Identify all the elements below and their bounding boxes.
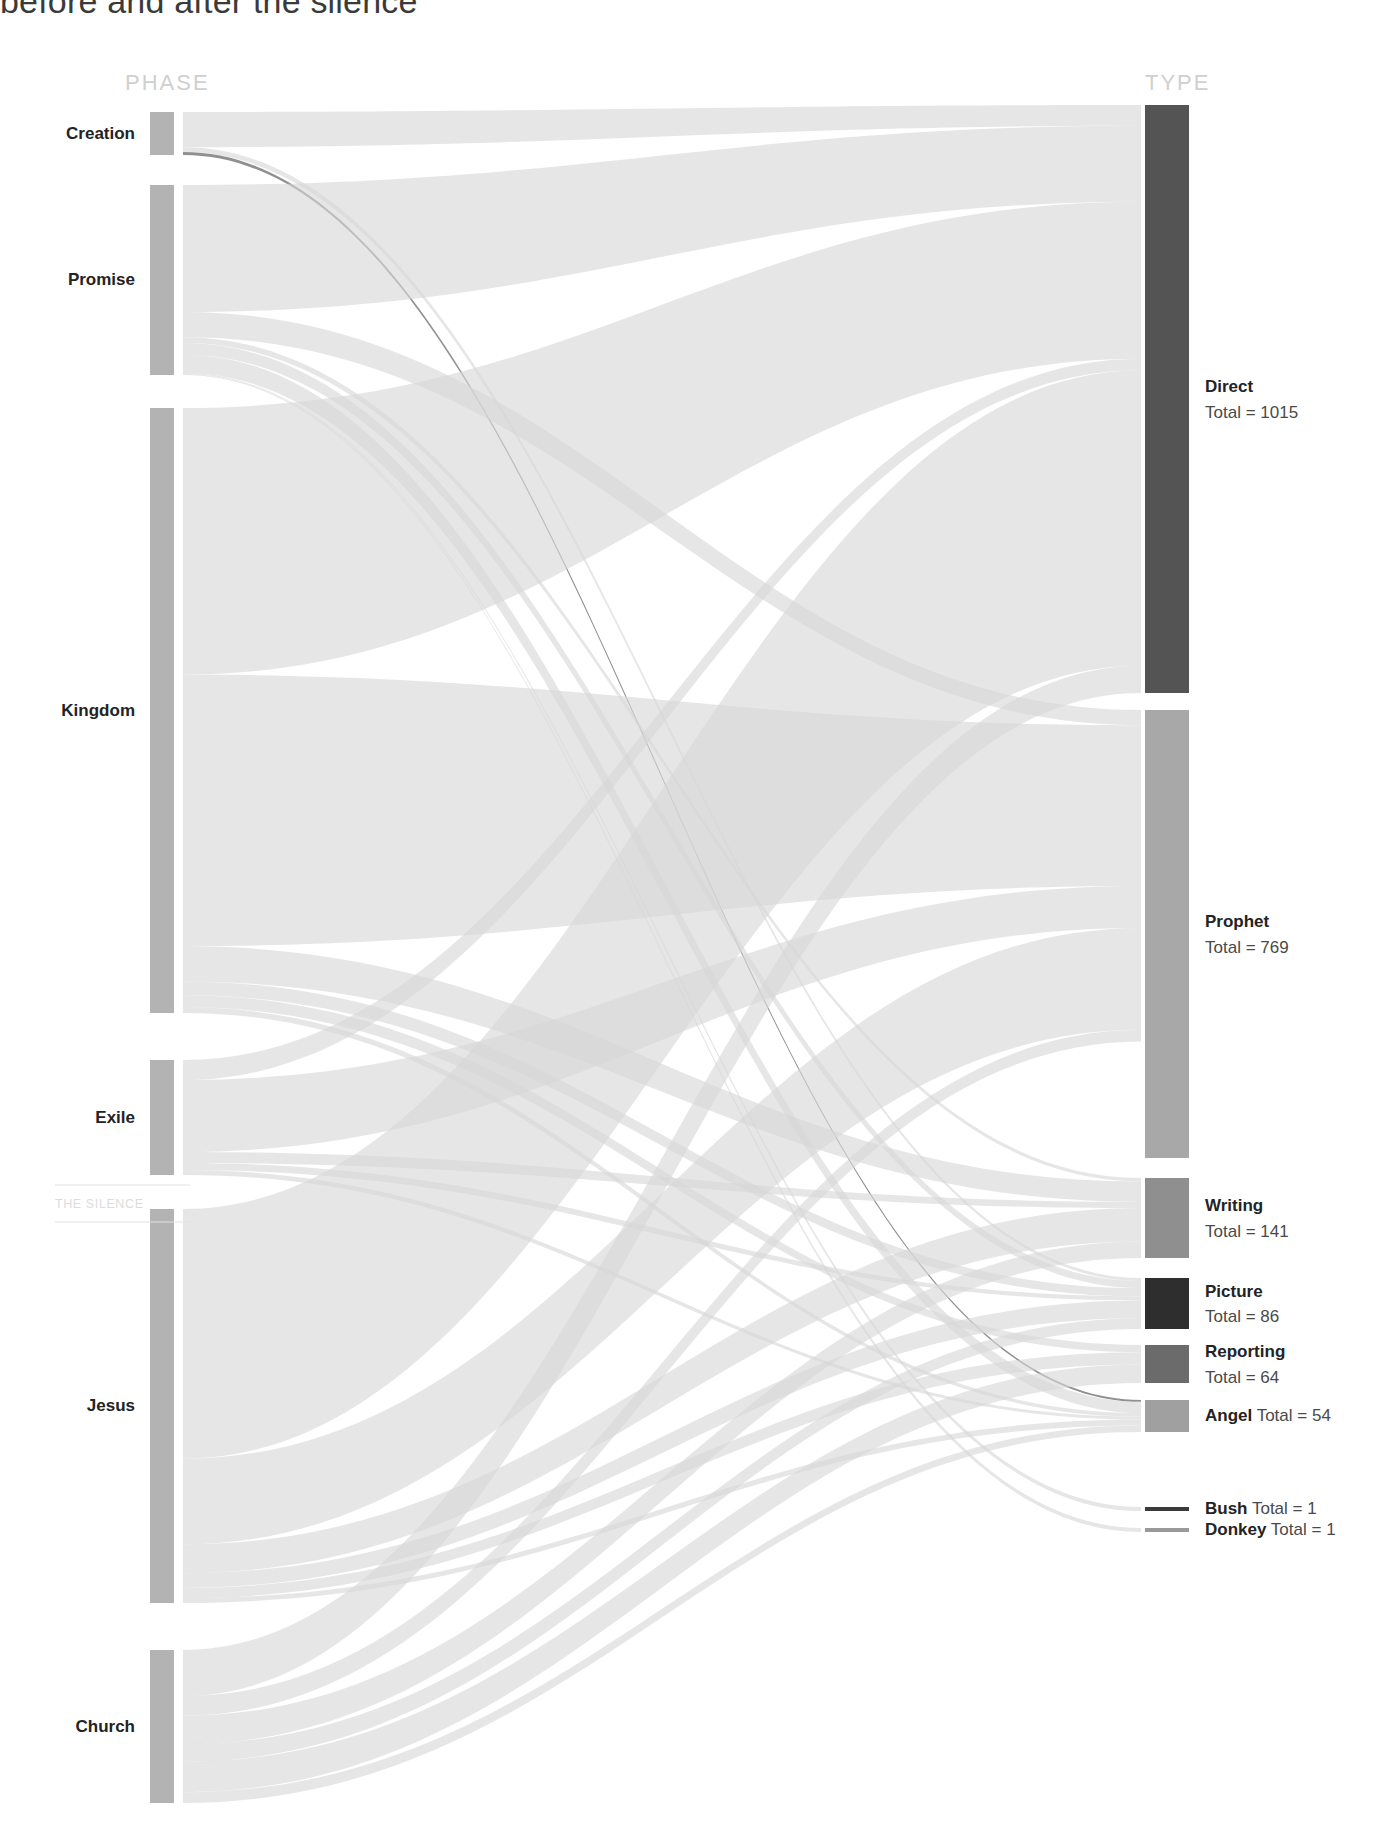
type-name-reporting: Reporting (1205, 1339, 1285, 1365)
link-layer (183, 105, 1141, 1803)
phase-node-kingdom[interactable] (150, 408, 174, 1013)
type-total-angel: Total = 54 (1257, 1406, 1331, 1425)
type-name-picture: Picture (1205, 1278, 1279, 1304)
type-label-writing: WritingTotal = 141 (1205, 1193, 1289, 1244)
type-node-reporting[interactable] (1145, 1345, 1189, 1383)
type-total-writing: Total = 141 (1205, 1218, 1289, 1244)
type-node-writing[interactable] (1145, 1178, 1189, 1258)
type-node-donkey[interactable] (1145, 1528, 1189, 1532)
type-node-prophet[interactable] (1145, 710, 1189, 1158)
phase-node-exile[interactable] (150, 1060, 174, 1175)
phase-node-creation[interactable] (150, 112, 174, 155)
type-node-picture[interactable] (1145, 1278, 1189, 1329)
phase-label-creation: Creation (0, 124, 135, 144)
type-total-direct: Total = 1015 (1205, 399, 1298, 425)
phase-node-church[interactable] (150, 1650, 174, 1803)
type-node-bush[interactable] (1145, 1507, 1189, 1511)
type-name-prophet: Prophet (1205, 909, 1289, 935)
phase-label-jesus: Jesus (0, 1396, 135, 1416)
sankey-diagram (0, 0, 1400, 1823)
type-label-reporting: ReportingTotal = 64 (1205, 1339, 1285, 1390)
phase-node-promise[interactable] (150, 185, 174, 375)
type-node-direct[interactable] (1145, 105, 1189, 693)
type-label-angel: Angel Total = 54 (1205, 1403, 1331, 1429)
type-name-donkey: Donkey (1205, 1520, 1266, 1539)
type-name-bush: Bush (1205, 1499, 1248, 1518)
phase-label-kingdom: Kingdom (0, 701, 135, 721)
type-name-angel: Angel (1205, 1406, 1252, 1425)
type-label-direct: DirectTotal = 1015 (1205, 374, 1298, 425)
type-name-direct: Direct (1205, 374, 1298, 400)
type-label-prophet: ProphetTotal = 769 (1205, 909, 1289, 960)
type-total-picture: Total = 86 (1205, 1304, 1279, 1330)
phase-label-promise: Promise (0, 270, 135, 290)
type-name-writing: Writing (1205, 1193, 1289, 1219)
type-total-donkey: Total = 1 (1271, 1520, 1336, 1539)
type-total-prophet: Total = 769 (1205, 934, 1289, 960)
type-label-donkey: Donkey Total = 1 (1205, 1517, 1336, 1543)
silence-label: THE SILENCE (55, 1197, 144, 1211)
type-total-reporting: Total = 64 (1205, 1364, 1285, 1390)
phase-node-jesus[interactable] (150, 1209, 174, 1603)
type-label-picture: PictureTotal = 86 (1205, 1278, 1279, 1329)
type-node-angel[interactable] (1145, 1400, 1189, 1432)
phase-label-exile: Exile (0, 1108, 135, 1128)
phase-label-church: Church (0, 1717, 135, 1737)
type-total-bush: Total = 1 (1252, 1499, 1317, 1518)
